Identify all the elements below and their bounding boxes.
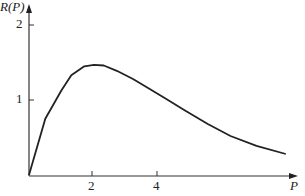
x-tick-label-2: 2 <box>88 178 95 194</box>
y-axis-arrow-icon <box>26 4 32 13</box>
r-of-p-curve <box>29 65 286 175</box>
x-axis-label: P <box>290 178 298 194</box>
x-tick-label-4: 4 <box>153 178 160 194</box>
y-axis-label: R(P) <box>0 0 25 15</box>
chart-plot <box>0 0 305 196</box>
y-tick-label-1: 1 <box>16 91 23 107</box>
y-tick-label-2: 2 <box>16 16 23 32</box>
